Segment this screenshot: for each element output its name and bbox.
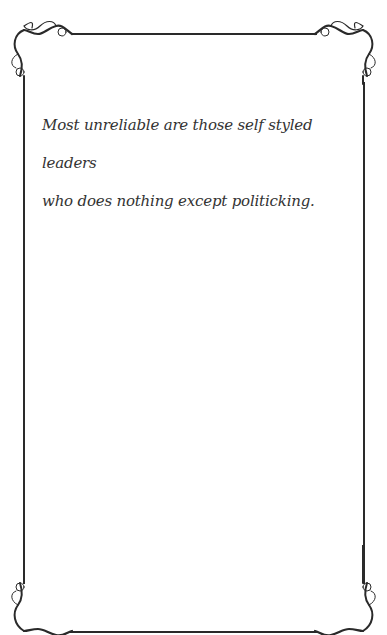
frame-left-border	[23, 82, 25, 584]
flourish-corner-icon	[0, 0, 80, 90]
flourish-corner-icon	[307, 545, 387, 635]
frame-top-border	[72, 33, 317, 35]
flourish-corner-icon	[307, 0, 387, 90]
frame-bottom-border	[70, 631, 317, 633]
quote-line: Most unreliable are those self styled le…	[42, 106, 362, 182]
frame-right-border	[363, 82, 365, 584]
quote-text: Most unreliable are those self styled le…	[42, 106, 362, 220]
flourish-corner-icon	[0, 545, 80, 635]
quote-line: who does nothing except politicking.	[42, 182, 362, 220]
